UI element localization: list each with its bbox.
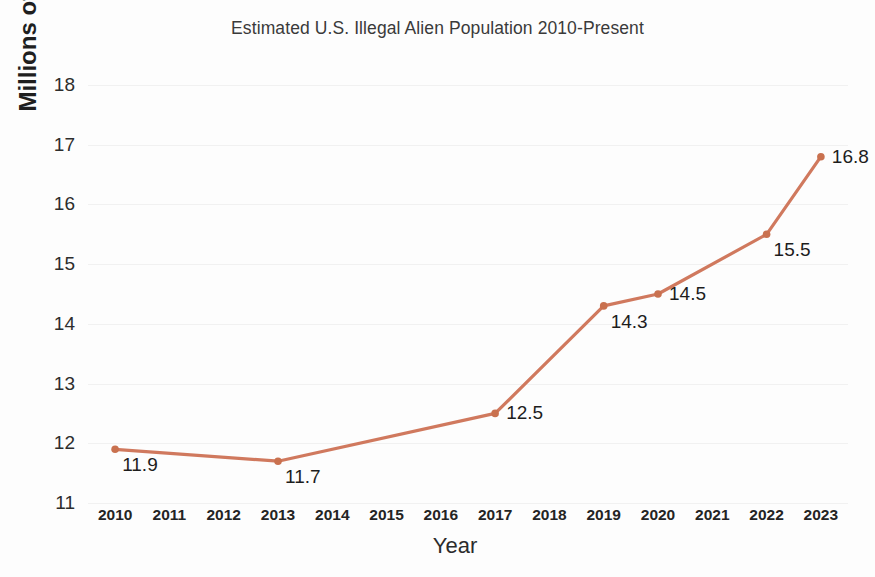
y-tick-label-12: 12	[54, 432, 75, 454]
x-tick-label-2010: 2010	[98, 506, 132, 524]
data-label-2022: 15.5	[774, 239, 811, 261]
gridline	[88, 503, 848, 504]
x-tick-label-2013: 2013	[261, 506, 295, 524]
data-label-2020: 14.5	[669, 283, 706, 305]
plot-area: 1112131415161718 20102011201220132014201…	[88, 85, 848, 503]
x-tick-label-2012: 2012	[206, 506, 240, 524]
data-label-2023: 16.8	[832, 146, 869, 168]
y-tick-label-14: 14	[54, 313, 75, 335]
chart-container: Estimated U.S. Illegal Alien Population …	[0, 0, 875, 577]
x-tick-label-2015: 2015	[369, 506, 403, 524]
data-point-marker[interactable]	[491, 410, 499, 418]
y-axis-title: Millions of Illegal Aliens	[10, 0, 46, 156]
y-tick-label-11: 11	[55, 492, 75, 514]
data-point-marker[interactable]	[274, 457, 282, 465]
y-tick-label-18: 18	[54, 74, 75, 96]
series-line-chart	[88, 85, 848, 503]
x-tick-label-2022: 2022	[749, 506, 783, 524]
x-axis-title: Year	[90, 533, 820, 559]
x-tick-label-2023: 2023	[804, 506, 838, 524]
chart-title: Estimated U.S. Illegal Alien Population …	[0, 18, 875, 39]
data-point-marker[interactable]	[654, 290, 662, 298]
x-tick-label-2019: 2019	[586, 506, 620, 524]
data-point-marker[interactable]	[600, 302, 608, 310]
x-tick-label-2014: 2014	[315, 506, 349, 524]
x-tick-label-2021: 2021	[695, 506, 729, 524]
data-label-2010: 11.9	[122, 454, 158, 476]
series-line-path	[115, 157, 821, 462]
x-tick-label-2017: 2017	[478, 506, 512, 524]
x-tick-label-2020: 2020	[641, 506, 675, 524]
data-point-marker[interactable]	[111, 446, 119, 454]
y-tick-label-15: 15	[54, 253, 75, 275]
x-tick-label-2011: 2011	[153, 506, 187, 524]
data-point-marker[interactable]	[763, 231, 771, 239]
data-label-2019: 14.3	[611, 311, 648, 333]
y-tick-label-13: 13	[54, 373, 75, 395]
x-tick-label-2016: 2016	[424, 506, 458, 524]
y-tick-label-17: 17	[54, 134, 75, 156]
data-label-2013: 11.7	[285, 466, 321, 488]
data-label-2017: 12.5	[506, 402, 543, 424]
data-point-marker[interactable]	[817, 153, 825, 161]
x-tick-label-2018: 2018	[532, 506, 566, 524]
y-tick-label-16: 16	[54, 193, 75, 215]
